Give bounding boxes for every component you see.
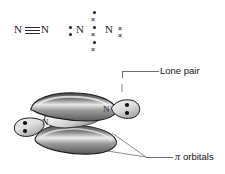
- left-lone-pair-electron-1: [23, 121, 27, 125]
- triple-bond-line-bottom: [25, 33, 40, 34]
- shared-pair-2-cross: ×: [91, 31, 95, 38]
- orbital-svg: N N: [0, 84, 160, 174]
- pi-orbitals-label: πorbitals: [175, 152, 214, 162]
- shared-pair-1-cross: ×: [91, 16, 95, 23]
- lone-pair-leader-vertical: [122, 71, 123, 78]
- orbital-right-nitrogen-label: N: [103, 104, 110, 114]
- pi-greek-symbol: π: [175, 151, 180, 162]
- left-lone-pair-electron-2: [23, 129, 27, 133]
- lone-pair-label: Lone pair: [160, 66, 200, 76]
- dotcross-right-nitrogen: N: [105, 24, 113, 35]
- pi-orbitals-word: orbitals: [183, 151, 214, 162]
- shared-pair-1-dot: [93, 11, 96, 14]
- pi-leader-from-top-lobe: [112, 133, 146, 157]
- orbital-left-nitrogen-label: N: [42, 117, 49, 127]
- triple-bond-line-top: [25, 27, 40, 28]
- left-lone-pair-dot-1: [69, 26, 72, 29]
- right-lone-pair-electron-1: [125, 103, 129, 107]
- lewis-right-nitrogen: N: [41, 24, 49, 35]
- shared-pair-3-cross: ×: [91, 46, 95, 53]
- nitrogen-bonding-figure: N N N × × × N × × Lone pair πorbitals: [0, 0, 225, 174]
- right-lone-pair-cross-1: ×: [118, 25, 122, 32]
- triple-bond-line-middle: [25, 30, 40, 31]
- nitrogen-orbital-diagram: N N: [0, 84, 160, 174]
- lewis-left-nitrogen: N: [14, 24, 22, 35]
- shared-pair-3-dot: [93, 41, 96, 44]
- right-lone-pair-electron-2: [125, 111, 129, 115]
- lone-pair-leader-horizontal: [122, 71, 159, 72]
- shared-pair-2-dot: [93, 26, 96, 29]
- right-lone-pair-lobe: [112, 100, 140, 119]
- pi-orbital-bottom: [35, 125, 116, 155]
- dotcross-left-nitrogen: N: [76, 24, 84, 35]
- left-lone-pair-dot-2: [69, 33, 72, 36]
- right-lone-pair-cross-2: ×: [118, 32, 122, 39]
